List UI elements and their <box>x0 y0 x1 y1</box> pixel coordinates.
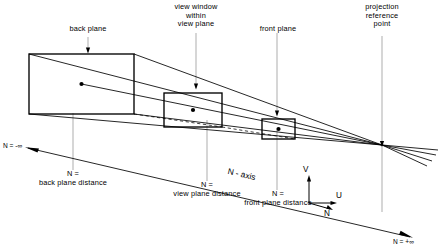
front-plane-center-point <box>276 127 280 131</box>
label-triad-u: U <box>336 192 342 201</box>
rail-top-left <box>29 54 382 145</box>
arrowhead-view-window <box>194 84 198 90</box>
view-window-center-point <box>191 108 195 112</box>
rail-top-right <box>134 54 382 145</box>
arrowhead-triad-v <box>307 175 311 182</box>
rail-bottom-right <box>134 114 382 145</box>
label-back-plane-distance: N = back plane distance <box>28 170 118 187</box>
leader-lines <box>88 33 382 145</box>
label-front-plane-distance: N = front plane distance <box>230 190 326 207</box>
label-back-plane: back plane <box>53 25 123 34</box>
arrowhead-back-plane <box>86 48 90 54</box>
label-view-window: view window within view plane <box>156 3 236 29</box>
diagram-canvas <box>0 0 440 251</box>
arrowhead-n-positive-infinity <box>399 231 413 238</box>
frustum-diagram: back plane view window within view plane… <box>0 0 440 251</box>
arrowhead-triad-u <box>331 201 338 205</box>
label-triad-n: N <box>324 210 330 219</box>
rays-beyond-prp <box>382 145 438 166</box>
label-projection-reference-point: projection reference point <box>347 3 417 29</box>
rail-bottom-left <box>29 114 382 145</box>
frustum-rails <box>29 54 382 145</box>
label-front-plane: front plane <box>243 25 313 34</box>
arrowhead-n-negative-infinity <box>25 147 39 152</box>
label-n-positive-infinity: N = +∞ <box>393 238 414 245</box>
arrowhead-front-plane <box>275 111 279 117</box>
label-triad-v: V <box>303 166 309 175</box>
label-n-negative-infinity: N = -∞ <box>3 142 22 149</box>
